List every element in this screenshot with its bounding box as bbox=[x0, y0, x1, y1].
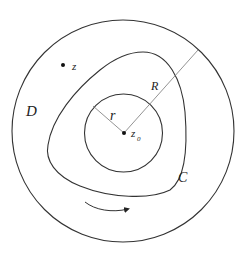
point-z bbox=[61, 63, 65, 67]
label-center-subscript: 0 bbox=[137, 135, 141, 143]
label-domain-d: D bbox=[25, 103, 37, 119]
center-point-z0 bbox=[122, 131, 126, 135]
orientation-arrow-icon bbox=[85, 202, 128, 211]
label-contour-c: C bbox=[178, 170, 188, 185]
contour-curve-c bbox=[47, 52, 185, 196]
label-outer-radius-r: R bbox=[150, 79, 159, 93]
inner-radius-line bbox=[93, 106, 124, 133]
label-inner-radius-r: r bbox=[110, 108, 116, 123]
label-point-z: z bbox=[71, 60, 77, 72]
domain-boundary-circle bbox=[12, 20, 234, 242]
label-center-z: z bbox=[130, 127, 136, 139]
contour-diagram: D z r R z 0 C bbox=[0, 0, 245, 259]
